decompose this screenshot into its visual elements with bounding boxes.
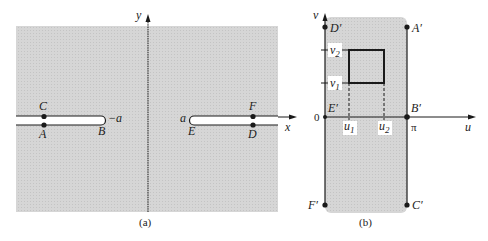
label-neg-a: −a [108,111,122,125]
label-F-prime: F′ [307,198,318,212]
y-axis-arrow-icon [146,14,151,22]
label-C: C [39,99,48,113]
label-E: E [187,124,196,138]
label-B-prime: B′ [411,101,421,115]
label-E-prime: E′ [327,101,338,115]
point-B-prime [404,114,410,120]
panel-a: x y C A B −a a E F D (a) [16,8,297,229]
label-D-prime: D′ [329,21,342,35]
point-E-prime [323,115,327,119]
left-slit [16,116,106,125]
u-axis-label: u [465,120,471,134]
label-D: D [247,127,257,141]
caption-a: (a) [139,216,152,229]
label-A-prime: A′ [411,21,422,35]
origin-label: 0 [314,111,320,123]
v-axis-label: v [313,8,319,22]
label-C-prime: C′ [412,198,423,212]
x-axis-label: x [284,120,291,134]
label-F: F [248,99,257,113]
u-axis-arrow-icon [468,115,476,120]
v-axis-arrow-icon [323,13,328,21]
label-B: B [98,124,106,138]
caption-b: (b) [359,216,372,229]
point-C [41,114,46,119]
point-F-prime [322,202,327,207]
figure: x y C A B −a a E F D (a) v u 0 π [0,0,488,241]
label-pos-a: a [180,111,186,125]
right-slit [190,116,279,125]
panel-b: v u 0 π v2 v1 u1 u2 D′ A′ E′ B′ F′ [307,8,476,229]
y-axis-label: y [135,8,142,22]
point-D-prime [322,24,327,29]
point-F [250,114,255,119]
pi-label: π [411,121,417,133]
x-axis-arrow-icon [289,115,297,120]
point-A-prime [404,24,409,29]
label-A: A [38,127,47,141]
point-C-prime [404,202,409,207]
